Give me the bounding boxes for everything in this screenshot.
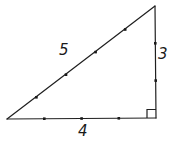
right-angle-marker — [147, 110, 156, 119]
tick-dot — [43, 117, 46, 120]
vertical-leg-line — [155, 6, 156, 118]
tick-dot — [65, 73, 68, 76]
tick-dot — [94, 51, 97, 54]
tick-dot — [154, 42, 157, 45]
vertical-leg-length-label: 3 — [158, 47, 168, 62]
tick-dot — [124, 28, 127, 31]
tick-dot — [80, 117, 83, 120]
hypotenuse-line — [7, 6, 155, 119]
tick-dot — [35, 96, 38, 99]
triangle-diagram-canvas: 5 3 4 — [0, 0, 174, 146]
base-leg-length-label: 4 — [78, 124, 88, 139]
tick-dot — [118, 117, 121, 120]
triangle-outline — [7, 6, 156, 119]
tick-dot — [154, 79, 157, 82]
hypotenuse-length-label: 5 — [59, 43, 69, 58]
